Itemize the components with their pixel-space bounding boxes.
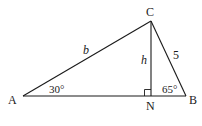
vertex-label-c: C <box>146 5 154 19</box>
side-label-b: b <box>83 43 89 57</box>
triangle-diagram: C A N B b h 5 30° 65° <box>0 0 202 126</box>
side-ac <box>23 21 151 96</box>
side-label-h: h <box>141 53 147 67</box>
side-label-5: 5 <box>173 48 179 62</box>
vertex-label-a: A <box>8 93 17 107</box>
vertex-label-n: N <box>146 99 155 113</box>
vertex-label-b: B <box>189 93 197 107</box>
angle-label-a: 30° <box>49 83 64 95</box>
right-angle-marker <box>145 90 152 97</box>
angle-label-b: 65° <box>162 83 177 95</box>
